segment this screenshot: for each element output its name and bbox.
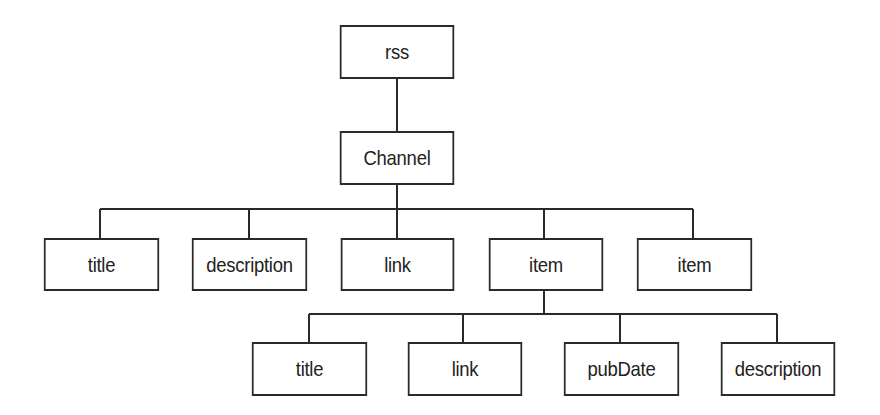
node-item-link: link [408, 342, 522, 396]
node-channel-item: item [489, 238, 603, 291]
node-label: description [735, 357, 821, 381]
node-item-pubdate: pubDate [564, 342, 679, 396]
node-label: link [384, 253, 411, 277]
node-label: rss [385, 40, 409, 64]
rss-tree-diagram: rss Channel title description link item … [0, 0, 880, 415]
node-label: pubDate [587, 357, 655, 381]
node-label: title [88, 253, 115, 277]
node-item-description: description [721, 342, 835, 396]
node-label: item [678, 253, 712, 277]
node-channel-link: link [341, 238, 455, 291]
node-channel-item-2: item [637, 238, 752, 291]
node-rss: rss [340, 25, 454, 79]
node-channel-title: title [44, 238, 159, 291]
node-channel: Channel [340, 131, 454, 185]
node-label: title [296, 357, 323, 381]
node-channel-description: description [192, 238, 307, 291]
node-label: Channel [363, 146, 430, 170]
node-item-title: title [252, 342, 367, 396]
node-label: item [529, 253, 563, 277]
node-label: description [206, 253, 292, 277]
node-label: link [452, 357, 479, 381]
